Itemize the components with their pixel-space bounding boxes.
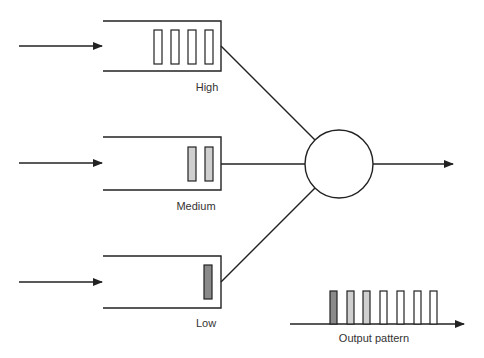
scheduler-node <box>305 130 373 198</box>
queue-low: Low <box>19 188 315 329</box>
queue-label-low: Low <box>196 317 216 329</box>
queue-high: High <box>19 21 315 140</box>
output-packet <box>347 291 354 324</box>
queue-label-high: High <box>196 81 219 93</box>
priority-queue-diagram: High Medium Low Output pattern <box>0 0 484 358</box>
output-packet <box>414 291 421 324</box>
output-pattern-label: Output pattern <box>339 332 409 344</box>
packet <box>154 30 162 64</box>
packet <box>205 147 213 181</box>
queue-medium: Medium <box>19 137 305 212</box>
queue-label-medium: Medium <box>176 200 215 212</box>
output-pattern: Output pattern <box>290 291 464 344</box>
output-packet <box>330 291 337 324</box>
output-packet <box>430 291 437 324</box>
queue-packets-high <box>154 30 213 64</box>
queue-buffer-medium <box>103 137 221 190</box>
packet <box>204 265 212 299</box>
connector-high <box>221 46 315 140</box>
connector-low <box>221 188 315 282</box>
packet <box>205 30 213 64</box>
queue-buffer-low <box>103 256 221 308</box>
queue-packets-medium <box>188 147 213 181</box>
packet <box>188 30 196 64</box>
output-packet <box>363 291 370 324</box>
packet <box>171 30 179 64</box>
output-packet <box>380 291 387 324</box>
queue-packets-low <box>204 265 212 299</box>
output-packet <box>397 291 404 324</box>
packet <box>188 147 196 181</box>
